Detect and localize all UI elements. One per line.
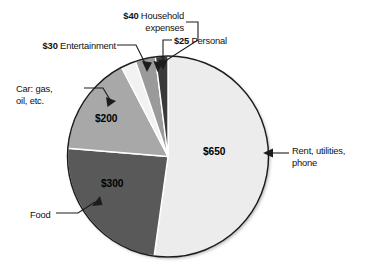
callout-car: Car: gas, oil, etc. bbox=[16, 83, 82, 106]
callout-household-amount: $40 bbox=[123, 10, 138, 21]
pie-slice-food[interactable] bbox=[68, 148, 168, 256]
pie-chart-figure: $40 Household expenses $30 Entertainment… bbox=[0, 0, 370, 269]
callout-rent-line1: Rent, utilities, bbox=[292, 145, 345, 156]
callout-household-text2: expenses bbox=[145, 22, 184, 33]
callout-personal-amount: $25 bbox=[174, 35, 189, 46]
slice-value-food: $300 bbox=[101, 178, 123, 189]
callout-household-text: Household bbox=[141, 10, 184, 21]
callout-food-line1: Food bbox=[30, 209, 51, 220]
callout-entertainment-amount: $30 bbox=[43, 40, 58, 51]
callout-rent: Rent, utilities, phone bbox=[292, 145, 368, 168]
callout-rent-line2: phone bbox=[292, 157, 317, 168]
callout-food: Food bbox=[30, 209, 51, 221]
callout-car-line2: oil, etc. bbox=[16, 95, 44, 106]
callout-household: $40 Household expenses bbox=[72, 10, 184, 33]
callout-car-line1: Car: gas, bbox=[16, 83, 52, 94]
pie-slices-group bbox=[68, 56, 269, 257]
callout-entertainment-text: Entertainment bbox=[60, 40, 116, 51]
callout-personal: $25 Personal bbox=[174, 35, 227, 47]
callout-entertainment: $30 Entertainment bbox=[6, 40, 116, 52]
slice-value-rent: $650 bbox=[203, 146, 225, 157]
slice-value-car: $200 bbox=[95, 113, 117, 124]
callout-personal-text: Personal bbox=[192, 35, 228, 46]
